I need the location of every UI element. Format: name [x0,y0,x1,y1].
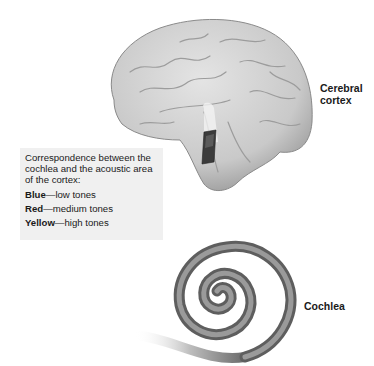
legend-item-red: Red—medium tones [25,203,158,214]
legend-key: Yellow [25,217,55,228]
legend-value: high tones [64,217,108,228]
cerebral-cortex-label: Cerebral cortex [320,82,374,106]
legend-value: medium tones [53,203,113,214]
legend-item-blue: Blue—low tones [25,189,158,200]
legend-sep: — [43,203,53,214]
legend-value: low tones [55,189,96,200]
legend-key: Blue [25,189,46,200]
legend-key: Red [25,203,43,214]
cerebral-cortex-label-line1: Cerebral [320,82,374,94]
legend-intro: Correspondence between the cochlea and t… [25,152,158,186]
cochlea-label: Cochlea [304,300,345,312]
legend-box: Correspondence between the cochlea and t… [20,148,163,240]
legend-sep: — [55,217,65,228]
legend-item-yellow: Yellow—high tones [25,217,158,228]
legend-sep: — [46,189,56,200]
cochlea-illustration [135,235,305,366]
cerebral-cortex-label-line2: cortex [320,94,374,106]
